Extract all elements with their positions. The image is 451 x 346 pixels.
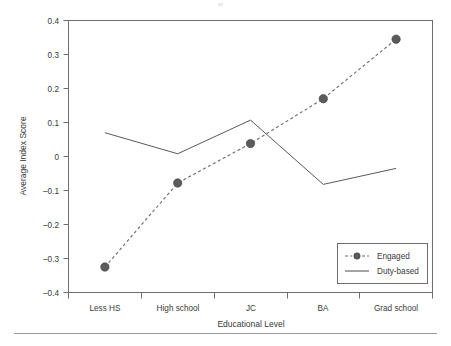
- x-tick-label: High school: [157, 304, 200, 313]
- legend-box: [338, 244, 428, 284]
- y-tick-label: 0.1: [48, 119, 60, 128]
- line-chart: 0.4 0.3 0.2 0.1 0 –0.1 –0.2 –0.3 –0.4 Av…: [0, 0, 451, 346]
- y-tick-label: –0.1: [43, 187, 59, 196]
- y-tick-label: –0.3: [43, 255, 59, 264]
- series-markers-engaged: [101, 35, 401, 271]
- legend-label-engaged: Engaged: [377, 252, 410, 261]
- y-tick-label: –0.2: [43, 221, 59, 230]
- y-tick-label: 0: [54, 153, 59, 162]
- y-tick-label: 0.2: [48, 85, 60, 94]
- figure-container: 0.4 0.3 0.2 0.1 0 –0.1 –0.2 –0.3 –0.4 Av…: [0, 0, 451, 346]
- x-tick-label: Grad school: [374, 304, 418, 313]
- y-tick-label: 0.4: [48, 17, 60, 26]
- chart-legend: Engaged Duty-based: [338, 244, 428, 284]
- data-point-marker: [101, 263, 109, 271]
- data-point-marker: [319, 95, 327, 103]
- data-point-marker: [392, 35, 400, 43]
- legend-circle-marker-icon: [354, 253, 360, 259]
- scan-artifact: [218, 3, 223, 6]
- x-tick-label: JC: [246, 304, 256, 313]
- y-tick-label: 0.3: [48, 51, 60, 60]
- y-axis-ticks: [64, 21, 69, 293]
- y-axis-title: Average Index Score: [18, 116, 28, 195]
- data-point-marker: [174, 179, 182, 187]
- x-axis-title: Educational Level: [217, 319, 284, 329]
- series-line-duty-based: [105, 120, 396, 184]
- data-point-marker: [246, 139, 254, 147]
- series-line-engaged: [105, 39, 396, 267]
- x-axis-ticks: [69, 293, 433, 299]
- x-tick-labels: Less HS High school JC BA Grad school: [90, 304, 419, 313]
- legend-label-duty-based: Duty-based: [377, 267, 419, 276]
- y-tick-labels: 0.4 0.3 0.2 0.1 0 –0.1 –0.2 –0.3 –0.4: [43, 17, 59, 298]
- x-tick-label: BA: [318, 304, 329, 313]
- x-tick-label: Less HS: [90, 304, 121, 313]
- y-tick-label: –0.4: [43, 289, 59, 298]
